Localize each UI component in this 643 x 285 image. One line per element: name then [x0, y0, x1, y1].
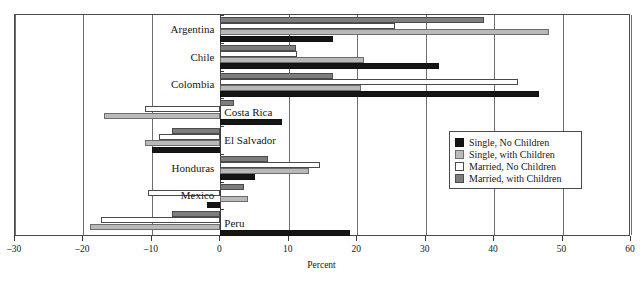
x-tick-label: –20 [75, 244, 89, 254]
legend-item: Married, with Children [455, 172, 576, 184]
group-tick [220, 15, 224, 16]
bar [220, 29, 549, 35]
bar [220, 51, 297, 57]
gridline [563, 15, 564, 235]
legend: Single, No ChildrenSingle, with Children… [449, 131, 582, 189]
bar [220, 79, 518, 85]
category-label-argentina: Argentina [171, 23, 215, 35]
legend-swatch-icon [455, 174, 464, 183]
x-tick-label: 0 [217, 244, 222, 254]
x-tick-label: 30 [420, 244, 430, 254]
legend-item: Single, with Children [455, 148, 576, 160]
chart-root: ArgentinaChileColombiaCosta RicaEl Salva… [0, 0, 643, 285]
legend-swatch-icon [455, 138, 464, 147]
legend-label: Married, No Children [469, 161, 556, 172]
x-tick-mark [425, 236, 426, 241]
bar [220, 17, 484, 23]
x-tick-mark [151, 236, 152, 241]
x-tick-mark [219, 236, 220, 241]
x-tick-mark [630, 236, 631, 241]
x-tick-label: 40 [488, 244, 498, 254]
legend-item: Married, No Children [455, 160, 576, 172]
gridline [357, 15, 358, 235]
x-tick-label: 10 [283, 244, 293, 254]
x-tick-label: 50 [557, 244, 567, 254]
bar [220, 184, 244, 190]
plot-area: ArgentinaChileColombiaCosta RicaEl Salva… [14, 14, 630, 236]
legend-swatch-icon [455, 162, 464, 171]
bar [207, 202, 221, 208]
legend-label: Single, with Children [469, 149, 555, 160]
gridline [631, 15, 632, 235]
x-tick-mark [14, 236, 15, 241]
x-tick-mark [562, 236, 563, 241]
x-tick-mark [356, 236, 357, 241]
bar [220, 230, 350, 236]
bar [145, 140, 220, 146]
bar [172, 128, 220, 134]
group-tick [220, 98, 224, 99]
bar [220, 23, 395, 29]
gridline [15, 15, 16, 235]
bar [220, 196, 247, 202]
bar [220, 91, 538, 97]
x-tick-label: 60 [625, 244, 635, 254]
bar [220, 174, 254, 180]
category-label-costa-rica: Costa Rica [224, 106, 272, 118]
legend-item: Single, No Children [455, 136, 576, 148]
bar [159, 134, 221, 140]
x-tick-mark [288, 236, 289, 241]
bar [220, 119, 282, 125]
bar [220, 57, 364, 63]
bar [145, 106, 220, 112]
x-axis-title: Percent [0, 260, 643, 270]
bar [220, 36, 333, 42]
x-tick-mark [493, 236, 494, 241]
legend-label: Married, with Children [469, 173, 561, 184]
category-label-peru: Peru [224, 217, 244, 229]
bar [220, 168, 309, 174]
bar [220, 162, 319, 168]
category-label-honduras: Honduras [172, 162, 215, 174]
gridline [494, 15, 495, 235]
category-label-chile: Chile [191, 51, 215, 63]
bar [152, 147, 220, 153]
bar [220, 73, 333, 79]
x-tick-label: 20 [351, 244, 361, 254]
group-tick [220, 126, 224, 127]
legend-label: Single, No Children [469, 137, 549, 148]
bar [220, 45, 295, 51]
bar [220, 63, 439, 69]
gridline [152, 15, 153, 235]
category-label-colombia: Colombia [171, 78, 214, 90]
x-tick-label: –10 [144, 244, 158, 254]
bar [220, 85, 360, 91]
group-tick [220, 209, 224, 210]
legend-swatch-icon [455, 150, 464, 159]
category-label-mexico: Mexico [181, 189, 215, 201]
gridline [426, 15, 427, 235]
gridline [83, 15, 84, 235]
bar [101, 217, 221, 223]
bar [220, 156, 268, 162]
category-label-el-salvador: El Salvador [224, 134, 276, 146]
bar [104, 113, 220, 119]
bar [172, 211, 220, 217]
x-tick-label: –30 [7, 244, 21, 254]
x-tick-mark [82, 236, 83, 241]
bar [90, 224, 220, 230]
